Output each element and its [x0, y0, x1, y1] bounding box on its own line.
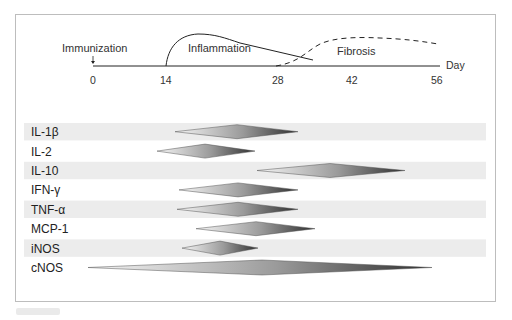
- row-label: MCP-1: [31, 222, 69, 236]
- marker-row: iNOS: [24, 239, 486, 256]
- marker-row: TNF-α: [24, 201, 486, 218]
- marker-row: MCP-1: [31, 222, 315, 237]
- row-label: IFN-γ: [31, 183, 60, 197]
- marker-row: IFN-γ: [31, 183, 298, 198]
- row-label: IL-10: [31, 164, 59, 178]
- tick-14: 14: [160, 74, 172, 86]
- tick-56: 56: [431, 74, 443, 86]
- marker-row: IL-2: [31, 144, 255, 159]
- tick-0: 0: [90, 74, 96, 86]
- expression-diamond: [196, 222, 315, 236]
- inflammation-label: Inflammation: [188, 42, 251, 54]
- row-label: cNOS: [31, 261, 63, 275]
- tick-28: 28: [272, 74, 284, 86]
- figure-caption: [16, 308, 60, 315]
- row-label: iNOS: [31, 242, 60, 256]
- axis-label-day: Day: [446, 59, 465, 71]
- timeline-axis: Day 0 14 28 42 56: [90, 59, 465, 86]
- row-label: IL-1β: [31, 125, 59, 139]
- row-label: IL-2: [31, 145, 52, 159]
- marker-row: IL-1β: [24, 123, 486, 140]
- expression-diamond: [179, 183, 298, 197]
- expression-diamond: [88, 260, 432, 275]
- marker-row: cNOS: [31, 260, 432, 275]
- marker-rows: IL-1βIL-2IL-10IFN-γTNF-αMCP-1iNOScNOS: [24, 123, 486, 275]
- marker-row: IL-10: [24, 162, 486, 179]
- fibrosis-curve: Fibrosis: [276, 38, 438, 66]
- immunization-marker: Immunization: [62, 42, 127, 64]
- timeline-diagram: Day 0 14 28 42 56 Immunization Inflammat…: [0, 0, 512, 320]
- immunization-label: Immunization: [62, 42, 127, 54]
- inflammation-curve: Inflammation: [166, 34, 313, 66]
- tick-42: 42: [346, 74, 358, 86]
- row-band: [24, 162, 486, 179]
- fibrosis-label: Fibrosis: [337, 45, 376, 57]
- expression-diamond: [157, 144, 255, 158]
- row-label: TNF-α: [31, 203, 65, 217]
